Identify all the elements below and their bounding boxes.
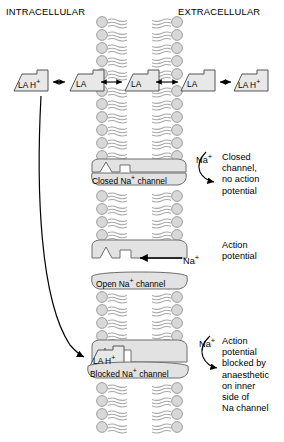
la-label-membrane: LA bbox=[131, 79, 141, 89]
la-label-text: LA bbox=[131, 79, 141, 89]
ion-label-na-open: Na+ bbox=[183, 253, 199, 266]
channel-label-open: Open Na+ channel bbox=[96, 277, 165, 289]
ion-label-text: Na bbox=[183, 256, 195, 266]
ion-label-na-blocked: Na+ bbox=[199, 336, 215, 349]
channel-label-text: Open Na bbox=[96, 279, 130, 289]
la-charge-sup: + bbox=[256, 78, 260, 85]
ion-label-text: Na bbox=[199, 339, 211, 349]
label-intracellular: INTRACELLULAR bbox=[6, 6, 85, 17]
la-label-intracellular-neutral: LA bbox=[76, 79, 86, 89]
la-label-text: LA H bbox=[238, 80, 256, 90]
channel-label-closed: Closed Na+ channel bbox=[92, 174, 167, 186]
la-label-text: LA H bbox=[93, 356, 111, 366]
ion-charge-sup: + bbox=[208, 152, 212, 161]
ion-charge-sup: + bbox=[211, 336, 215, 345]
la-charge-sup: + bbox=[111, 354, 115, 361]
annotation-closed-channel: Closed channel, no action potential bbox=[222, 152, 259, 197]
ion-label-text: Na bbox=[196, 155, 208, 165]
la-label-intracellular-protonated: LA H+ bbox=[18, 78, 40, 90]
annotation-open-channel: Action potential bbox=[222, 240, 257, 262]
ion-label-na-closed: Na+ bbox=[196, 152, 212, 165]
channel-label-text: Closed Na bbox=[92, 176, 131, 186]
la-label-text: LA bbox=[187, 79, 197, 89]
diagram-canvas: INTRACELLULAR EXTRACELLULAR LA H+ LA LA … bbox=[0, 0, 284, 442]
channel-label-tail: channel bbox=[134, 279, 166, 289]
channel-label-tail: channel bbox=[137, 369, 169, 379]
channel-label-blocked: Blocked Na+ channel bbox=[90, 367, 169, 379]
channel-protein-open-upper bbox=[92, 240, 187, 258]
la-label-extracellular-protonated: LA H+ bbox=[238, 78, 260, 90]
la-charge-sup: + bbox=[36, 78, 40, 85]
la-label-text: LA H bbox=[18, 80, 36, 90]
label-extracellular: EXTRACELLULAR bbox=[178, 6, 260, 17]
anaesthetic-pathway-arrow bbox=[39, 96, 84, 357]
channel-label-tail: channel bbox=[135, 176, 167, 186]
la-label-text: LA bbox=[76, 79, 86, 89]
la-label-extracellular-neutral: LA bbox=[187, 79, 197, 89]
channel-label-text: Blocked Na bbox=[90, 369, 133, 379]
ion-charge-sup: + bbox=[195, 253, 199, 262]
la-label-blocking: LA H+ bbox=[93, 354, 115, 366]
channel-protein-closed-upper bbox=[92, 159, 186, 172]
annotation-blocked-channel: Action potential blocked by anaesthetic … bbox=[222, 336, 269, 414]
